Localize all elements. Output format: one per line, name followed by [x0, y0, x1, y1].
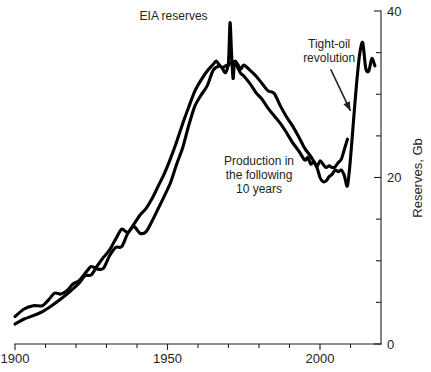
production-label-line-3: 10 years: [236, 182, 282, 196]
series-layer: [15, 23, 375, 324]
x-tick-label-1950: 1950: [153, 351, 182, 366]
tight-oil-label-arrow-head: [343, 101, 350, 111]
x-tick-label-2000: 2000: [306, 351, 335, 366]
x-tick-label-1900: 1900: [1, 351, 30, 366]
production-label-line-1: Production in: [224, 154, 294, 168]
series-line-2: [15, 61, 347, 324]
production-label: Production inthe following10 years: [224, 154, 294, 196]
reserves-production-chart: 19001950200002040Reserves, Gb EIA reserv…: [0, 0, 431, 372]
figure-caption-strip: [0, 365, 431, 372]
annotations-layer: EIA reservesProduction inthe following10…: [140, 9, 356, 196]
axes-layer: 19001950200002040Reserves, Gb: [1, 4, 425, 367]
tight-oil-label-line-2: revolution: [303, 51, 355, 65]
figure-panel: 19001950200002040Reserves, Gb EIA reserv…: [0, 0, 431, 372]
tight-oil-label-line-1: Tight-oil: [308, 37, 350, 51]
eia-reserves-label: EIA reserves: [140, 9, 208, 23]
y-tick-label-20: 20: [387, 170, 401, 185]
y-axis-title: Reserves, Gb: [410, 138, 425, 217]
tight-oil-label: Tight-oilrevolution: [303, 37, 355, 111]
eia-reserves-label-line-1: EIA reserves: [140, 9, 208, 23]
y-tick-label-0: 0: [387, 337, 394, 352]
y-tick-label-40: 40: [387, 4, 401, 19]
series-line-1: [15, 23, 375, 317]
production-label-line-2: the following: [226, 168, 293, 182]
